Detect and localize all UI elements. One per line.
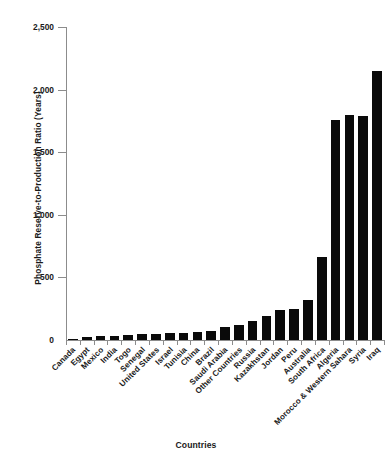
x-axis-tick (315, 341, 316, 345)
y-axis-tick (58, 215, 66, 216)
x-axis-tick (343, 341, 344, 345)
y-axis-tick (58, 90, 66, 91)
x-axis-tick (94, 341, 95, 345)
x-axis-tick (260, 341, 261, 345)
x-axis-tick (121, 341, 122, 345)
bar (151, 334, 161, 340)
x-axis-tick (301, 341, 302, 345)
x-axis-tick (273, 341, 274, 345)
bar (165, 333, 175, 340)
bar (303, 300, 313, 340)
y-axis-tick-label: 1,500 (0, 148, 54, 156)
bar-chart: Phosphate Reserve-to-Production Ratio (Y… (0, 0, 392, 469)
y-axis-tick-label: 500 (0, 273, 54, 281)
x-axis-tick (204, 341, 205, 345)
x-axis-tick (190, 341, 191, 345)
y-axis-tick-label: 1,000 (0, 211, 54, 219)
bar (220, 327, 230, 340)
x-axis-tick (66, 341, 67, 345)
x-axis-tick (107, 341, 108, 345)
x-axis-category-label: Iraq (365, 346, 381, 362)
x-axis-tick (80, 341, 81, 345)
y-axis-tick-label: 2,000 (0, 86, 54, 94)
y-axis-tick (58, 27, 66, 28)
y-axis-tick (58, 152, 66, 153)
x-axis-tick (287, 341, 288, 345)
bar (372, 71, 382, 340)
bar (110, 336, 120, 340)
bar (234, 325, 244, 340)
bar (193, 332, 203, 340)
x-axis-tick (246, 341, 247, 345)
x-axis-tick (149, 341, 150, 345)
y-axis-tick-label: 2,500 (0, 23, 54, 31)
x-axis-tick (370, 341, 371, 345)
plot-area (66, 27, 384, 340)
x-axis-tick (177, 341, 178, 345)
bar (248, 321, 258, 340)
x-axis-tick (135, 341, 136, 345)
x-axis-tick (218, 341, 219, 345)
bar (123, 335, 133, 340)
bar (317, 257, 327, 340)
x-axis-title: Countries (0, 440, 392, 450)
bar (179, 333, 189, 341)
x-axis-tick (384, 341, 385, 345)
bar (275, 310, 285, 340)
bar (96, 336, 106, 340)
y-axis-tick-label: 0 (0, 336, 54, 344)
bar (206, 331, 216, 340)
x-axis-tick (163, 341, 164, 345)
x-axis-tick (356, 341, 357, 345)
bar (137, 334, 147, 340)
bar (82, 337, 92, 340)
bar (345, 115, 355, 340)
y-axis-tick (58, 277, 66, 278)
bar (262, 316, 272, 340)
x-axis-tick (232, 341, 233, 345)
bar (331, 120, 341, 340)
x-axis-line (66, 340, 385, 341)
x-axis-tick (329, 341, 330, 345)
bar (289, 309, 299, 340)
bar (358, 116, 368, 340)
bar (68, 339, 78, 340)
